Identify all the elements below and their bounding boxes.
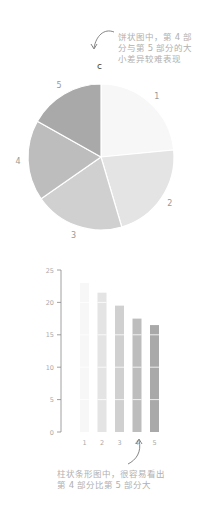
y-tick-label: 10 xyxy=(46,364,54,372)
pie-label-5: 5 xyxy=(57,81,62,90)
pie-label-1: 1 xyxy=(154,92,159,101)
pie-slice-1 xyxy=(101,84,174,157)
pie-chart xyxy=(28,84,174,230)
bar-1 xyxy=(80,283,89,432)
pie-label-3: 3 xyxy=(71,231,76,240)
y-tick-label: 20 xyxy=(46,299,54,307)
x-tick-label: 5 xyxy=(152,439,156,447)
bar-5 xyxy=(150,325,159,432)
pie-label-2: 2 xyxy=(167,199,172,208)
chart-canvas: 12345 051015202512345 xyxy=(0,0,209,511)
curved-arrow-icon xyxy=(94,31,114,48)
y-tick-label: 25 xyxy=(46,267,54,275)
bar-annotation: 柱状条形图中，很容易看出第 4 部分比第 5 部分大 xyxy=(57,469,167,491)
pie-annotation: 饼状图中，第 4 部分与第 5 部分的大小差异较难表现 xyxy=(118,32,198,65)
y-tick-label: 0 xyxy=(50,429,54,437)
pie-label-4: 4 xyxy=(16,157,21,166)
y-tick-label: 5 xyxy=(50,396,54,404)
x-tick-label: 3 xyxy=(117,439,121,447)
x-tick-label: 2 xyxy=(100,439,104,447)
bar-2 xyxy=(98,293,107,432)
y-tick-label: 15 xyxy=(46,331,54,339)
panel-label: c xyxy=(97,61,102,71)
bar-4 xyxy=(133,319,142,432)
bar-3 xyxy=(115,306,124,432)
bar-chart: 051015202512345 xyxy=(46,267,159,448)
x-tick-label: 1 xyxy=(82,439,86,447)
